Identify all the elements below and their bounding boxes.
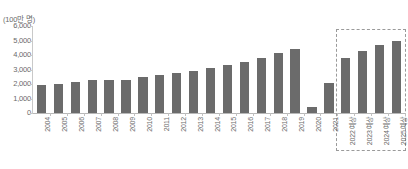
bar [257,58,266,113]
bar [121,80,130,113]
x-axis-tick-mark [337,113,338,116]
bar-column [88,26,97,113]
x-axis-tick-label: 2019 [298,117,305,132]
bar [324,83,333,113]
x-axis-tick-mark [371,113,372,116]
bar-column [392,26,401,113]
bar [358,51,367,113]
bar [71,82,80,113]
bar [392,41,401,114]
y-axis-tick-mark [30,84,33,85]
x-axis-tick-label: 2018 [281,117,288,132]
bar [189,71,198,113]
bar-column [206,26,215,113]
x-axis-tick-label: 2017 [264,117,271,132]
bar-column [240,26,249,113]
y-axis-tick-mark [30,55,33,56]
x-axis-tick-mark [253,113,254,116]
bar [307,107,316,113]
x-axis-tick-mark [151,113,152,116]
x-axis-tick-label: 2021 [332,117,339,132]
y-axis-tick-mark [30,113,33,114]
x-axis-tick-label: 2020 [315,117,322,132]
x-axis-tick-mark [219,113,220,116]
bar [88,80,97,113]
x-axis-tick-mark [202,113,203,116]
y-axis-tick-mark [30,26,33,27]
x-axis-tick-label: 2023 예상 [366,117,373,145]
bar [223,65,232,113]
x-axis-tick-mark [320,113,321,116]
x-axis-tick-mark [134,113,135,116]
bar [138,77,147,113]
x-axis-tick-mark [287,113,288,116]
bar [206,68,215,113]
bar-column [138,26,147,113]
y-axis-tick-label: 4,000 [1,51,31,59]
bar [290,49,299,113]
x-axis-tick-mark [270,113,271,116]
x-axis-tick-mark [50,113,51,116]
x-axis-tick-mark [67,113,68,116]
x-axis-tick-label: 2014 [214,117,221,132]
bar-column [257,26,266,113]
bar-column [189,26,198,113]
bar-column [71,26,80,113]
x-axis-tick-mark [405,113,406,116]
y-axis-tick-mark [30,41,33,42]
y-axis-tick-label: 3,000 [1,66,31,74]
y-axis-tick-label: 0 [1,109,31,117]
bar [155,75,164,113]
bar-column [290,26,299,113]
x-axis-tick-label: 2005 [61,117,68,132]
x-axis-tick-label: 2013 [197,117,204,132]
bar-column [274,26,283,113]
bar-column [37,26,46,113]
bar-column [104,26,113,113]
x-axis-tick-label: 2011 [163,117,170,131]
x-axis-tick-mark [304,113,305,116]
bar [274,53,283,113]
y-axis-tick-mark [30,99,33,100]
bar [375,45,384,113]
bar-column [358,26,367,113]
y-axis-tick-mark [30,70,33,71]
bar-column [223,26,232,113]
bar-column [307,26,316,113]
bar-column [155,26,164,113]
x-axis-tick-label: 2009 [129,117,136,132]
x-axis-tick-label: 2025 예상 [400,117,407,145]
bar-column [172,26,181,113]
bar [37,85,46,113]
bar-column [341,26,350,113]
x-axis-tick-label: 2016 [247,117,254,132]
x-axis-tick-label: 2006 [78,117,85,132]
bar-column [324,26,333,113]
x-axis-tick-mark [118,113,119,116]
x-axis-tick-label: 2012 [180,117,187,132]
x-axis-tick-mark [236,113,237,116]
bar [240,62,249,113]
bar [54,84,63,113]
x-axis-tick-mark [168,113,169,116]
bar [341,58,350,113]
x-axis-tick-label: 2010 [146,117,153,132]
x-axis-tick-label: 2008 [112,117,119,132]
bar [172,73,181,113]
bar-column [375,26,384,113]
x-axis-tick-mark [185,113,186,116]
x-axis-tick-mark [354,113,355,116]
y-axis-tick-label: 2,000 [1,80,31,88]
x-axis-tick-label: 2015 [230,117,237,132]
x-axis-tick-mark [388,113,389,116]
y-axis-tick-labels: 01,0002,0003,0004,0005,0006,000 [0,0,31,169]
y-axis-tick-label: 6,000 [1,22,31,30]
y-axis-tick-label: 1,000 [1,95,31,103]
x-axis-tick-mark [101,113,102,116]
bar-chart-figure: (100만 명) 01,0002,0003,0004,0005,0006,000… [0,0,408,169]
x-axis-tick-mark [84,113,85,116]
bar-column [54,26,63,113]
x-axis-tick-label: 2024 예상 [383,117,390,145]
y-axis-tick-label: 5,000 [1,37,31,45]
x-axis-tick-label: 2004 [44,117,51,132]
